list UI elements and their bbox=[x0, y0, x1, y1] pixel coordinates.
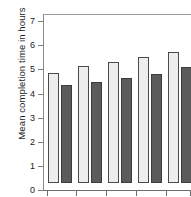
bar-dark bbox=[91, 82, 102, 183]
bar-dark bbox=[181, 67, 191, 183]
bar-group bbox=[78, 14, 103, 183]
bar-dark bbox=[61, 85, 72, 183]
bar-group bbox=[108, 14, 133, 183]
bar-light bbox=[108, 62, 119, 183]
bar-group bbox=[168, 14, 191, 183]
bar-light bbox=[138, 57, 149, 183]
y-tick-label: 2 bbox=[22, 137, 35, 146]
y-tick-label: 3 bbox=[22, 113, 35, 122]
bar-light bbox=[168, 52, 179, 183]
bar-group bbox=[48, 14, 73, 183]
y-tick-label: 1 bbox=[22, 161, 35, 170]
x-tick-mark bbox=[190, 190, 191, 196]
plot-area bbox=[44, 14, 191, 190]
bar-chart: Mean completion time in hours 01234567 bbox=[0, 0, 191, 197]
bar-light bbox=[78, 66, 89, 183]
y-tick-label: 4 bbox=[22, 89, 35, 98]
x-axis-line bbox=[44, 190, 191, 191]
x-tick-mark bbox=[47, 190, 48, 196]
y-tick-label: 7 bbox=[22, 17, 35, 26]
x-tick-mark bbox=[106, 190, 107, 196]
x-tick-mark bbox=[136, 190, 137, 196]
x-tick-mark bbox=[166, 190, 167, 196]
x-tick-mark bbox=[76, 190, 77, 196]
y-tick-label: 5 bbox=[22, 65, 35, 74]
y-tick-label: 6 bbox=[22, 41, 35, 50]
bar-dark bbox=[121, 78, 132, 183]
bar-dark bbox=[151, 74, 162, 183]
bar-light bbox=[48, 73, 59, 183]
bar-group bbox=[138, 14, 163, 183]
y-tick-label: 0 bbox=[22, 186, 35, 195]
y-tick-mark bbox=[38, 190, 44, 191]
